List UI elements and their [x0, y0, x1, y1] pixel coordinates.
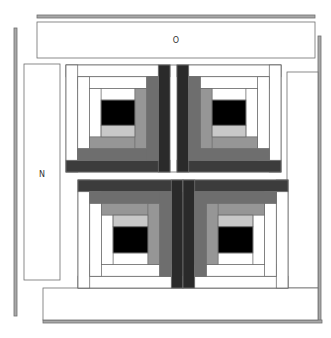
top-left-block-light-strip-top-0 [66, 65, 170, 77]
bottom-right-block-dark-strip-left-0 [183, 180, 195, 288]
top-right-block-dark-strip-bottom-0 [177, 160, 281, 172]
bottom-left-block [78, 180, 183, 288]
top-right-block-light-strip-right-0 [269, 65, 281, 172]
bottom-right-block-dark-strip-top-0 [183, 180, 288, 192]
left-bar [14, 28, 17, 316]
bottom-right-block-light-strip-bottom-0 [183, 276, 288, 288]
top-left-block-light-strip-left-0 [66, 65, 78, 172]
top-left-block-dark-strip-right-2 [135, 88, 147, 148]
bottom-left-block-dark-strip-top-1 [90, 192, 172, 204]
bottom-right-block-light-strip-right-1 [265, 192, 277, 277]
bottom-right-block-inner-strip-top [218, 215, 253, 227]
quilt-diagram: ON [0, 0, 331, 338]
top-right-block-inner-strip-bottom [212, 125, 246, 137]
top-left-block-dark-strip-bottom-0 [66, 160, 170, 172]
bottom-left-block-dark-strip-right-2 [148, 203, 160, 264]
left-panel-label: N [39, 170, 45, 179]
top-right-block-center-square [212, 100, 246, 125]
top-right-block [177, 65, 281, 172]
bottom-left-block-dark-strip-right-0 [171, 180, 183, 288]
bottom-left-block-center-square [113, 227, 148, 253]
top-right-block-light-strip-top-0 [177, 65, 281, 77]
top-left-block [66, 65, 170, 172]
bottom-right-block-center-square [218, 227, 253, 253]
top-right-block-dark-strip-left-1 [189, 77, 201, 161]
top-left-block-inner-strip-bottom [101, 125, 135, 137]
top-left-block-dark-strip-right-0 [158, 65, 170, 172]
bottom-left-block-light-strip-left-0 [78, 180, 90, 288]
right-panel [287, 72, 318, 288]
top-right-block-dark-strip-left-0 [177, 65, 189, 172]
top-panel-label: O [173, 36, 179, 45]
bottom-right-block-light-strip-right-0 [276, 180, 288, 288]
bottom-left-block-dark-strip-right-1 [160, 192, 172, 277]
top-right-block-dark-strip-left-2 [200, 88, 212, 148]
bottom-bar [43, 320, 322, 323]
blocks-layer [66, 65, 288, 288]
bottom-left-block-light-strip-bottom-0 [78, 276, 183, 288]
bottom-left-block-dark-strip-top-0 [78, 180, 183, 192]
top-left-block-light-strip-left-1 [78, 77, 90, 161]
top-bar [37, 15, 315, 18]
bottom-right-block-dark-strip-top-1 [195, 192, 277, 204]
bottom-panel [43, 288, 318, 320]
bottom-left-block-inner-strip-top [113, 215, 148, 227]
top-left-block-dark-strip-right-1 [147, 77, 159, 161]
bottom-right-block-dark-strip-left-1 [195, 192, 207, 277]
bottom-right-block-dark-strip-left-2 [206, 203, 218, 264]
right-bar [318, 36, 321, 322]
bottom-right-block [183, 180, 288, 288]
bottom-right-block-light-strip-bottom-1 [195, 265, 277, 277]
bottom-left-block-light-strip-bottom-1 [90, 265, 172, 277]
top-left-block-center-square [101, 100, 135, 125]
top-right-block-light-strip-right-1 [258, 77, 270, 161]
bottom-left-block-light-strip-left-1 [90, 192, 102, 277]
